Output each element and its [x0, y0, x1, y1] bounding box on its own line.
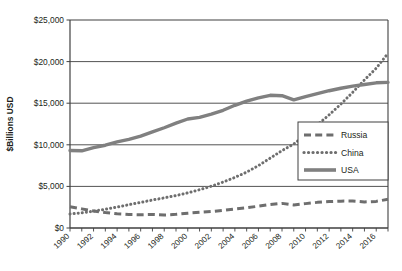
- y-axis-title: $Billions USD: [5, 97, 15, 152]
- y-tick-label: $15,000: [34, 98, 65, 108]
- y-tick-label: $0: [55, 223, 65, 233]
- y-tick-label: $5,000: [38, 181, 64, 191]
- x-tick-label: 1990: [52, 232, 72, 251]
- x-tick-label: 1998: [146, 232, 166, 251]
- x-tick-label: 1992: [75, 232, 95, 251]
- legend-label-russia: Russia: [341, 130, 367, 140]
- x-tick-label: 2004: [217, 232, 237, 251]
- x-tick-label: 1996: [122, 232, 142, 251]
- x-tick-label: 2006: [240, 232, 260, 251]
- legend-label-china: China: [341, 148, 364, 158]
- x-tick-label: 2016: [358, 232, 378, 251]
- x-tick-label: 2014: [334, 232, 354, 251]
- x-tick-label: 2002: [193, 232, 213, 251]
- x-tick-label: 2010: [287, 232, 307, 251]
- x-tick-label: 1994: [99, 232, 119, 251]
- x-tick-label: 2012: [311, 232, 331, 251]
- legend-label-usa: USA: [341, 165, 359, 175]
- chart-container: $0$5,000$10,000$15,000$20,000$25,0001990…: [0, 0, 402, 271]
- economy-gdp-line-chart: $0$5,000$10,000$15,000$20,000$25,0001990…: [0, 0, 402, 271]
- x-tick-label: 2000: [170, 232, 190, 251]
- y-tick-label: $20,000: [34, 57, 65, 67]
- y-tick-label: $25,000: [34, 15, 65, 25]
- y-tick-label: $10,000: [34, 140, 65, 150]
- x-tick-label: 2008: [264, 232, 284, 251]
